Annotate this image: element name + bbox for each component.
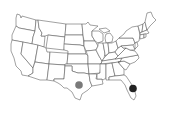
- state-arkansas: [88, 64, 101, 74]
- us-map: [0, 0, 171, 120]
- state-north-dakota: [65, 24, 83, 35]
- state-connecticut: [140, 34, 144, 39]
- texas-marker[interactable]: [75, 81, 83, 89]
- state-new-mexico: [47, 64, 65, 81]
- state-maine: [145, 12, 156, 30]
- state-kansas: [67, 54, 88, 64]
- state-new-jersey: [135, 42, 138, 49]
- state-colorado: [49, 52, 68, 65]
- state-montana: [38, 20, 66, 37]
- florida-marker[interactable]: [129, 85, 137, 93]
- state-iowa: [84, 41, 98, 51]
- state-rhode-island: [144, 34, 146, 38]
- state-nebraska: [64, 44, 86, 54]
- state-wyoming: [46, 35, 65, 50]
